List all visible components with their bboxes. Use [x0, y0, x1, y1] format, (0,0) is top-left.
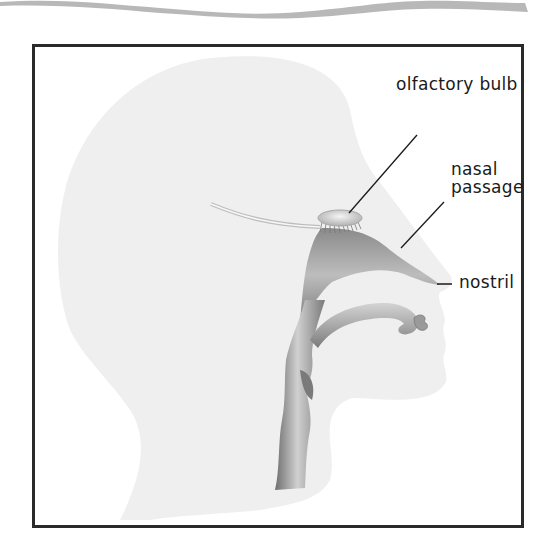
nasal-passage-label-line2: passage	[451, 178, 524, 197]
olfactory-bulb	[318, 210, 362, 226]
head-silhouette	[58, 56, 452, 520]
nostril-label: nostril	[459, 273, 514, 292]
olfactory-bulb-label: olfactory bulb	[396, 75, 518, 94]
